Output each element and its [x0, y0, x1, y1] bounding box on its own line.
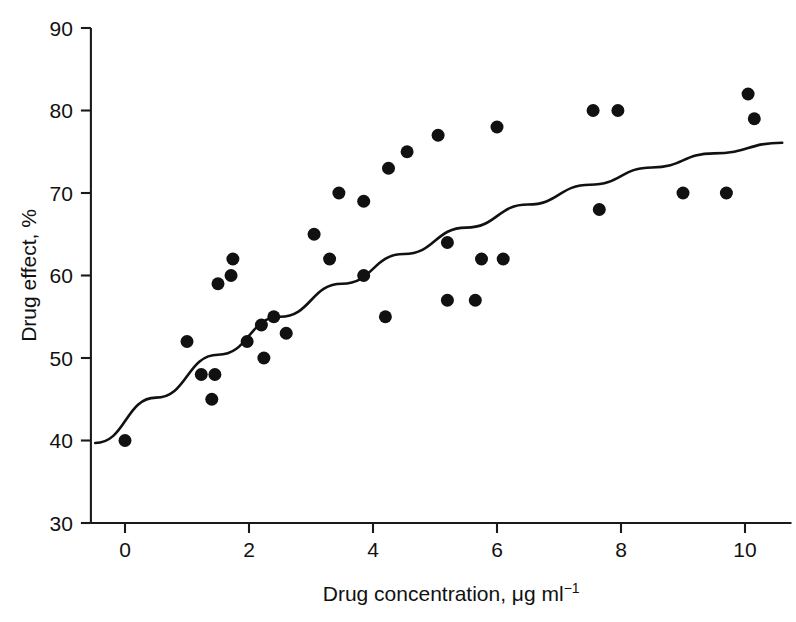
data-point [748, 112, 761, 125]
y-tick-label: 60 [50, 264, 73, 287]
data-point [257, 352, 270, 365]
y-axis-ticks [81, 28, 91, 523]
data-point [497, 253, 510, 266]
chart-figure: 30405060708090 0246810 Drug concentratio… [0, 0, 796, 622]
x-tick-label: 6 [491, 538, 503, 561]
data-point [742, 88, 755, 101]
data-point [379, 310, 392, 323]
x-tick-label: 10 [733, 538, 756, 561]
y-axis-title: Drug effect, % [17, 209, 40, 342]
x-tick-label: 8 [615, 538, 627, 561]
x-tick-label: 2 [243, 538, 255, 561]
x-axis-ticks [125, 523, 745, 533]
data-point [332, 187, 345, 200]
data-point [677, 187, 690, 200]
y-tick-label: 90 [50, 17, 73, 40]
data-point [267, 310, 280, 323]
data-point [611, 104, 624, 117]
data-point [593, 203, 606, 216]
data-point [205, 393, 218, 406]
y-tick-label: 70 [50, 182, 73, 205]
y-axis-tick-labels: 30405060708090 [50, 17, 73, 535]
data-point [357, 195, 370, 208]
x-axis-tick-labels: 0246810 [119, 538, 757, 561]
x-tick-label: 4 [367, 538, 379, 561]
data-point-series [119, 88, 761, 448]
y-axis: 30405060708090 [50, 17, 91, 535]
data-point [181, 335, 194, 348]
data-point [469, 294, 482, 307]
data-point [441, 236, 454, 249]
x-tick-label: 0 [119, 538, 131, 561]
data-point [280, 327, 293, 340]
y-tick-label: 50 [50, 347, 73, 370]
data-point [720, 187, 733, 200]
data-point [323, 253, 336, 266]
data-point [212, 277, 225, 290]
data-point [208, 368, 221, 381]
data-point [382, 162, 395, 175]
data-point [357, 269, 370, 282]
data-point [401, 145, 414, 158]
data-point [225, 269, 238, 282]
data-point [119, 434, 132, 447]
scatter-plot-canvas: 30405060708090 0246810 Drug concentratio… [0, 0, 796, 622]
x-axis: 0246810 [91, 523, 792, 561]
data-point [226, 253, 239, 266]
fitted-curve [95, 143, 782, 443]
data-point [195, 368, 208, 381]
y-tick-label: 30 [50, 512, 73, 535]
data-point [587, 104, 600, 117]
data-point [491, 121, 504, 134]
data-point [432, 129, 445, 142]
data-point [475, 253, 488, 266]
data-point [441, 294, 454, 307]
x-axis-title: Drug concentration, μg ml−1 [323, 580, 580, 605]
data-point [255, 319, 268, 332]
y-tick-label: 80 [50, 99, 73, 122]
data-point [308, 228, 321, 241]
y-tick-label: 40 [50, 429, 73, 452]
data-point [241, 335, 254, 348]
